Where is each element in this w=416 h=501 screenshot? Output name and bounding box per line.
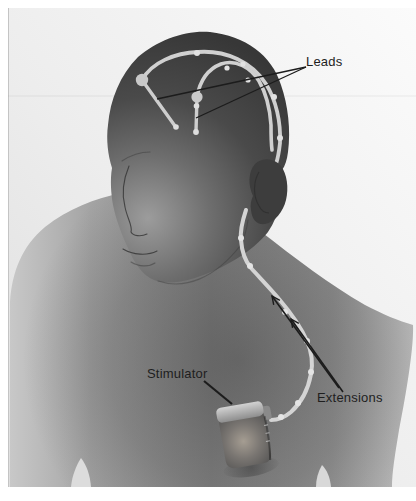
label-stimulator: Stimulator — [147, 366, 208, 381]
cable-dot — [277, 135, 283, 141]
cable-dot — [240, 61, 245, 66]
cable-dot — [238, 235, 244, 241]
cable-dot — [271, 94, 277, 100]
lead-2-connector — [194, 103, 200, 109]
cable-dot — [247, 263, 253, 269]
lead-1-electrode — [173, 124, 179, 130]
cable-dot — [224, 65, 229, 70]
label-extensions: Extensions — [317, 390, 383, 405]
label-leads: Leads — [306, 54, 343, 69]
burr-hole-2 — [191, 91, 202, 102]
dbs-diagram-svg: Leads Stimulator Extensions — [0, 0, 416, 501]
cable-dot — [308, 369, 314, 375]
burr-hole-1 — [136, 74, 148, 86]
medical-illustration: Leads Stimulator Extensions — [0, 0, 416, 501]
cable-dot — [278, 414, 284, 420]
cable-dot — [194, 50, 200, 56]
cable-dot — [295, 400, 301, 406]
lead-2-electrode — [193, 129, 199, 135]
